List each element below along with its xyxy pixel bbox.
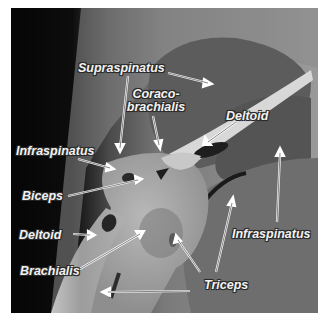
label-infraspinatus-left: Infraspinatus bbox=[16, 145, 95, 158]
label-supraspinatus: Supraspinatus bbox=[78, 62, 165, 75]
label-biceps: Biceps bbox=[22, 190, 63, 203]
label-deltoid-lower: Deltoid bbox=[19, 229, 61, 242]
label-deltoid-upper: Deltoid bbox=[226, 110, 268, 123]
label-infraspinatus-right: Infraspinatus bbox=[232, 228, 311, 241]
label-coracobrachialis-line2: brachialis bbox=[123, 101, 189, 114]
label-triceps: Triceps bbox=[204, 279, 248, 292]
label-brachialis: Brachialis bbox=[20, 265, 80, 278]
label-coracobrachialis: Coraco- brachialis bbox=[123, 88, 189, 114]
